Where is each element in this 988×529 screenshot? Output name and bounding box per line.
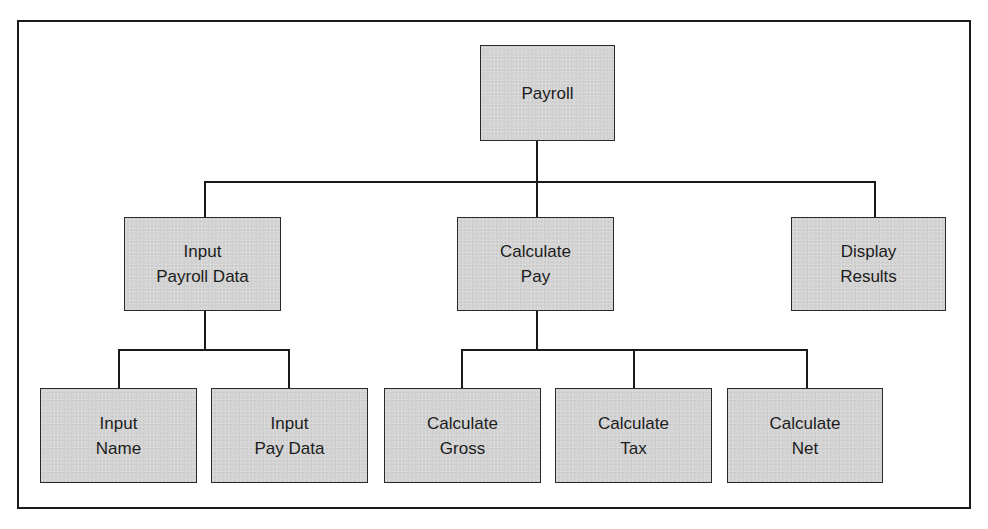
connector-to-calculate-net bbox=[806, 349, 808, 388]
node-label-line: Pay bbox=[500, 264, 571, 289]
node-label-line: Name bbox=[96, 436, 141, 461]
connector-to-calculate-gross bbox=[461, 349, 463, 388]
node-display-results[interactable]: Display Results bbox=[791, 217, 946, 311]
node-calculate-net[interactable]: Calculate Net bbox=[727, 388, 883, 483]
node-input-payroll-data[interactable]: Input Payroll Data bbox=[124, 217, 281, 311]
node-label-line: Calculate bbox=[770, 411, 841, 436]
node-calculate-gross[interactable]: Calculate Gross bbox=[384, 388, 541, 483]
connector-to-input-pay-data bbox=[288, 349, 290, 388]
connector-to-calculate-tax bbox=[633, 349, 635, 388]
node-label-line: Calculate bbox=[500, 239, 571, 264]
hierarchy-diagram: Payroll Input Payroll Data Calculate Pay… bbox=[0, 0, 988, 529]
connector-input-payroll-data-trunk bbox=[204, 310, 206, 351]
node-payroll[interactable]: Payroll bbox=[480, 45, 615, 141]
node-label-line: Calculate bbox=[427, 411, 498, 436]
connector-calculate-pay-trunk bbox=[536, 310, 538, 351]
node-calculate-tax[interactable]: Calculate Tax bbox=[555, 388, 712, 483]
node-label-line: Input bbox=[156, 239, 249, 264]
node-label-line: Payroll bbox=[522, 81, 574, 106]
node-input-name[interactable]: Input Name bbox=[40, 388, 197, 483]
connector-input-bar bbox=[118, 349, 290, 351]
node-label-line: Tax bbox=[598, 436, 669, 461]
connector-to-display-results bbox=[874, 181, 876, 217]
connector-to-calculate-pay bbox=[536, 181, 538, 217]
node-input-pay-data[interactable]: Input Pay Data bbox=[211, 388, 368, 483]
node-label-line: Payroll Data bbox=[156, 264, 249, 289]
node-label-line: Calculate bbox=[598, 411, 669, 436]
connector-to-input-name bbox=[118, 349, 120, 388]
connector-level2-bar bbox=[204, 181, 876, 183]
node-label-line: Net bbox=[770, 436, 841, 461]
node-calculate-pay[interactable]: Calculate Pay bbox=[457, 217, 614, 311]
connector-to-input-payroll-data bbox=[204, 181, 206, 217]
node-label-line: Display bbox=[840, 239, 897, 264]
node-label-line: Input bbox=[255, 411, 325, 436]
node-label-line: Results bbox=[840, 264, 897, 289]
connector-root-trunk bbox=[536, 140, 538, 183]
node-label-line: Input bbox=[96, 411, 141, 436]
node-label-line: Gross bbox=[427, 436, 498, 461]
node-label-line: Pay Data bbox=[255, 436, 325, 461]
